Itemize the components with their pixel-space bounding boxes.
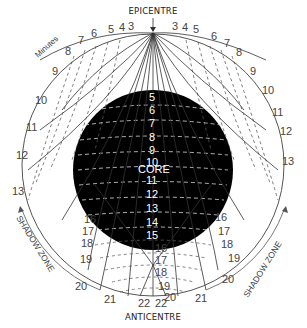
svg-text:17: 17: [155, 254, 167, 266]
svg-text:18: 18: [155, 266, 167, 278]
svg-text:9: 9: [52, 65, 58, 77]
svg-text:12: 12: [280, 125, 292, 137]
svg-text:17: 17: [218, 225, 230, 237]
svg-text:7: 7: [149, 117, 155, 129]
svg-text:19: 19: [228, 252, 240, 264]
svg-text:14: 14: [146, 216, 158, 228]
svg-text:20: 20: [75, 280, 87, 292]
seismic-wave-diagram: EPICENTRE ANTICENTRE Minutes CORE SHADOW…: [0, 0, 307, 328]
arrowhead-icon: [150, 27, 156, 32]
epicentre-label: EPICENTRE: [129, 6, 178, 16]
svg-text:9: 9: [250, 65, 256, 77]
svg-text:22: 22: [138, 297, 150, 309]
svg-text:3: 3: [128, 20, 134, 32]
svg-text:13: 13: [146, 202, 158, 214]
svg-text:13: 13: [282, 155, 294, 167]
svg-text:11: 11: [272, 106, 283, 118]
svg-text:7: 7: [78, 34, 84, 46]
svg-text:8: 8: [236, 46, 242, 58]
svg-text:10: 10: [262, 84, 274, 96]
svg-text:11: 11: [26, 121, 37, 133]
svg-text:8: 8: [149, 131, 155, 143]
svg-text:16: 16: [84, 213, 96, 225]
svg-text:16: 16: [155, 242, 167, 254]
svg-text:3: 3: [172, 20, 178, 32]
svg-text:6: 6: [91, 27, 97, 39]
svg-text:18: 18: [221, 238, 233, 250]
svg-text:15: 15: [146, 229, 158, 241]
svg-text:6: 6: [211, 30, 217, 42]
svg-text:4: 4: [119, 21, 125, 33]
anticentre-label: ANTICENTRE: [125, 312, 181, 322]
svg-text:22: 22: [155, 297, 167, 309]
svg-text:5: 5: [149, 91, 155, 103]
svg-text:11: 11: [146, 174, 157, 186]
svg-text:8: 8: [65, 45, 71, 57]
svg-text:18: 18: [81, 237, 93, 249]
svg-text:10: 10: [146, 156, 158, 168]
svg-text:16: 16: [215, 211, 227, 223]
diagram-canvas: EPICENTRE ANTICENTRE Minutes CORE SHADOW…: [0, 0, 307, 328]
svg-text:20: 20: [222, 273, 234, 285]
minutes-label: Minutes: [33, 34, 60, 59]
svg-text:7: 7: [224, 37, 230, 49]
svg-text:12: 12: [16, 149, 28, 161]
svg-text:9: 9: [149, 144, 155, 156]
svg-text:21: 21: [104, 293, 116, 305]
svg-text:19: 19: [80, 253, 92, 265]
svg-text:12: 12: [146, 188, 158, 200]
svg-text:17: 17: [82, 225, 94, 237]
svg-text:13: 13: [12, 185, 24, 197]
svg-text:5: 5: [108, 23, 114, 35]
svg-text:5: 5: [193, 23, 199, 35]
svg-text:6: 6: [149, 104, 155, 116]
svg-text:10: 10: [35, 94, 47, 106]
lower-centre-minutes: 16 17 18 19 20: [155, 242, 176, 303]
svg-text:4: 4: [182, 21, 188, 33]
svg-text:21: 21: [195, 292, 207, 304]
